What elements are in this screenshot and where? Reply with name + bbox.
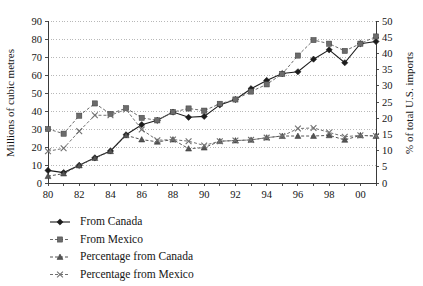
- y-axis-right-tick-label: 10: [382, 145, 393, 156]
- x-axis-tick-label: 80: [43, 189, 54, 200]
- series-percentage-from-canada: [45, 132, 379, 178]
- series-line: [48, 135, 376, 176]
- data-point-square-marker: [139, 115, 144, 120]
- legend-label: Percentage from Canada: [80, 250, 193, 263]
- data-point-cross-marker: [295, 126, 301, 132]
- data-point-square-marker: [264, 82, 269, 87]
- y-axis-left-ticks: 0102030405060708090: [32, 16, 49, 189]
- x-axis-tick-label: 90: [199, 189, 210, 200]
- data-point-square-marker: [45, 126, 50, 131]
- chart-container: 8082848688909294969800 01020304050607080…: [0, 0, 423, 286]
- data-point-square-marker: [77, 113, 82, 118]
- y-axis-left-tick-label: 90: [32, 16, 43, 27]
- y-axis-right-tick-label: 50: [382, 16, 393, 27]
- data-point-square-marker: [295, 53, 300, 58]
- y-axis-left-tick-label: 40: [32, 106, 43, 117]
- y-axis-left-title: Millions of cubic metres: [4, 49, 16, 157]
- y-axis-right-title: % of total U.S. imports: [403, 52, 415, 154]
- data-point-square-marker: [61, 131, 66, 136]
- data-point-triangle-marker: [295, 133, 301, 138]
- x-axis-tick-label: 86: [136, 189, 147, 200]
- chart-legend: From CanadaFrom MexicoPercentage from Ca…: [50, 215, 194, 281]
- y-axis-right-tick-label: 35: [382, 64, 393, 75]
- x-axis-tick-label: 94: [261, 189, 272, 200]
- y-axis-right-tick-label: 45: [382, 32, 393, 43]
- legend-label: Percentage from Mexico: [80, 268, 194, 281]
- data-point-cross-marker: [92, 112, 98, 118]
- y-axis-right-tick-label: 15: [382, 129, 393, 140]
- x-axis-tick-label: 98: [324, 189, 335, 200]
- x-axis-tick-label: 84: [105, 189, 116, 200]
- data-point-square-marker: [202, 108, 207, 113]
- y-axis-left-tick-label: 60: [32, 70, 43, 81]
- y-axis-right-tick-label: 25: [382, 97, 393, 108]
- data-point-square-marker: [57, 237, 62, 242]
- legend-item-from-canada[interactable]: From Canada: [50, 215, 142, 227]
- x-axis-tick-label: 92: [230, 189, 241, 200]
- legend-item-from-mexico[interactable]: From Mexico: [50, 233, 143, 245]
- y-axis-left-tick-label: 10: [32, 160, 43, 171]
- legend-item-percentage-from-canada[interactable]: Percentage from Canada: [50, 250, 193, 263]
- data-point-diamond-marker: [185, 114, 191, 120]
- y-axis-left-tick-label: 20: [32, 142, 43, 153]
- x-axis-tick-label: 88: [168, 189, 179, 200]
- data-point-square-marker: [342, 48, 347, 53]
- data-point-square-marker: [280, 71, 285, 76]
- data-point-triangle-marker: [139, 137, 145, 142]
- data-point-cross-marker: [76, 128, 82, 134]
- x-axis-tick-label: 82: [74, 189, 85, 200]
- x-axis-tick-label: 96: [293, 189, 304, 200]
- data-series: [45, 34, 379, 179]
- data-point-diamond-marker: [45, 167, 51, 173]
- y-axis-right-tick-label: 20: [382, 113, 393, 124]
- data-point-square-marker: [233, 97, 238, 102]
- line-chart-figure: 8082848688909294969800 01020304050607080…: [0, 0, 423, 286]
- legend-label: From Mexico: [80, 233, 143, 245]
- y-axis-right-tick-label: 0: [382, 178, 387, 189]
- legend-item-percentage-from-mexico[interactable]: Percentage from Mexico: [50, 268, 194, 281]
- data-point-square-marker: [155, 118, 160, 123]
- data-point-square-marker: [358, 41, 363, 46]
- y-axis-right-tick-label: 40: [382, 48, 393, 59]
- y-axis-right-tick-label: 5: [382, 161, 387, 172]
- x-axis-ticks: 8082848688909294969800: [43, 183, 376, 200]
- data-point-square-marker: [92, 101, 97, 106]
- data-point-square-marker: [186, 106, 191, 111]
- y-axis-left-tick-label: 70: [32, 52, 43, 63]
- y-axis-left-tick-label: 80: [32, 34, 43, 45]
- y-axis-left-tick-label: 30: [32, 124, 43, 135]
- y-axis-right-tick-label: 30: [382, 80, 393, 91]
- data-point-square-marker: [248, 89, 253, 94]
- legend-label: From Canada: [80, 215, 142, 227]
- data-point-square-marker: [327, 41, 332, 46]
- data-point-cross-marker: [61, 145, 67, 151]
- data-point-square-marker: [311, 37, 316, 42]
- y-axis-left-tick-label: 50: [32, 88, 43, 99]
- data-point-square-marker: [217, 101, 222, 106]
- data-point-square-marker: [373, 34, 378, 39]
- x-axis-tick-label: 00: [355, 189, 366, 200]
- data-point-diamond-marker: [373, 38, 379, 44]
- data-point-diamond-marker: [57, 219, 63, 225]
- y-axis-left-tick-label: 0: [37, 178, 42, 189]
- data-point-square-marker: [170, 109, 175, 114]
